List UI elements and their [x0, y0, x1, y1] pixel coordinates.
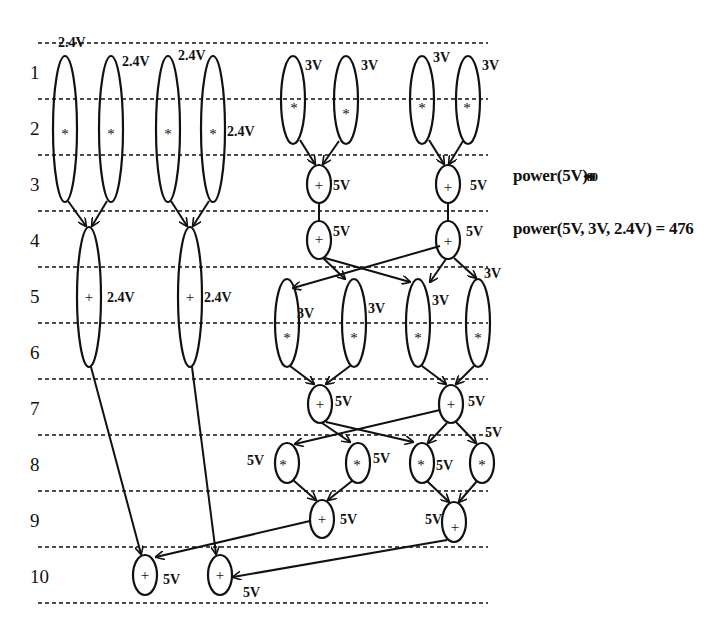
svg-text:*: *	[290, 100, 298, 116]
edges	[68, 140, 477, 577]
svg-text:*: *	[414, 330, 422, 346]
svg-text:*: *	[478, 457, 486, 473]
svg-text:+: +	[444, 233, 452, 249]
svg-text:2.4V: 2.4V	[178, 48, 206, 63]
svg-text:3V: 3V	[482, 58, 499, 73]
step-label: 2	[30, 118, 40, 139]
power-single-label: power(5V)	[513, 166, 588, 185]
svg-text:+: +	[141, 567, 149, 583]
svg-text:+: +	[316, 396, 324, 412]
operator-symbols: * * * * + + * * * * + + + + * * * * + + …	[61, 100, 486, 583]
svg-text:*: *	[209, 126, 217, 142]
step-label: 4	[30, 230, 40, 251]
svg-text:2.4V: 2.4V	[58, 35, 86, 50]
svg-text:5V: 5V	[466, 224, 483, 239]
svg-text:*: *	[350, 330, 358, 346]
svg-text:*: *	[353, 457, 361, 473]
step-label: 10	[30, 566, 49, 587]
svg-text:*: *	[61, 126, 69, 142]
svg-text:*: *	[463, 100, 471, 116]
svg-text:*: *	[417, 457, 425, 473]
svg-text:3V: 3V	[484, 266, 501, 281]
svg-text:5V: 5V	[340, 512, 357, 527]
svg-text:*: *	[418, 100, 426, 116]
svg-text:3V: 3V	[432, 293, 449, 308]
power-multi-voltage: power(5V, 3V, 2.4V) = 476	[513, 219, 694, 239]
svg-text:5V: 5V	[436, 458, 453, 473]
svg-text:5V: 5V	[333, 178, 350, 193]
step-label: 8	[30, 454, 40, 475]
svg-text:*: *	[342, 106, 350, 122]
svg-text:*: *	[279, 457, 287, 473]
svg-text:+: +	[444, 179, 452, 195]
svg-text:5V: 5V	[333, 224, 350, 239]
svg-text:3V: 3V	[305, 58, 322, 73]
step-labels: 1 2 3 4 5 6 7 8 9 10	[30, 62, 49, 587]
svg-text:3V: 3V	[297, 306, 314, 321]
svg-text:3V: 3V	[361, 58, 378, 73]
svg-text:3V: 3V	[368, 301, 385, 316]
svg-text:+: +	[447, 396, 455, 412]
step-dividers	[38, 43, 488, 603]
svg-text:5V: 5V	[373, 451, 390, 466]
svg-text:5V: 5V	[470, 178, 487, 193]
svg-text:2.4V: 2.4V	[107, 290, 135, 305]
power-single-voltage: power(5V)= 800	[513, 166, 598, 186]
step-label: 6	[30, 342, 40, 363]
svg-text:5V: 5V	[247, 453, 264, 468]
svg-text:2.4V: 2.4V	[204, 290, 232, 305]
step-label: 3	[30, 174, 40, 195]
svg-text:+: +	[315, 177, 323, 193]
svg-text:5V: 5V	[335, 394, 352, 409]
step-label: 9	[30, 510, 40, 531]
svg-text:2.4V: 2.4V	[122, 54, 150, 69]
step-label: 7	[30, 398, 40, 419]
step-label: 1	[30, 62, 40, 83]
svg-text:+: +	[216, 567, 224, 583]
svg-text:*: *	[283, 330, 291, 346]
voltage-labels: 2.4V 2.4V 2.4V 2.4V 2.4V 2.4V 3V 3V 3V 3…	[58, 35, 502, 600]
power-single-overstrike: = 800	[584, 169, 594, 184]
svg-text:*: *	[164, 126, 172, 142]
svg-text:5V: 5V	[468, 394, 485, 409]
svg-text:5V: 5V	[163, 572, 180, 587]
svg-text:+: +	[315, 231, 323, 247]
svg-text:2.4V: 2.4V	[227, 124, 255, 139]
svg-text:5V: 5V	[243, 585, 260, 600]
svg-text:3V: 3V	[433, 50, 450, 65]
svg-text:5V: 5V	[485, 425, 502, 440]
svg-text:+: +	[85, 289, 93, 305]
svg-text:+: +	[451, 519, 459, 535]
svg-text:*: *	[474, 330, 482, 346]
step-label: 5	[30, 286, 40, 307]
node-m2	[334, 56, 358, 144]
svg-text:*: *	[107, 126, 115, 142]
svg-text:+: +	[318, 511, 326, 527]
dfg-diagram: 1 2 3 4 5 6 7 8 9 10	[0, 0, 717, 631]
svg-text:+: +	[186, 289, 194, 305]
svg-text:5V: 5V	[425, 512, 442, 527]
